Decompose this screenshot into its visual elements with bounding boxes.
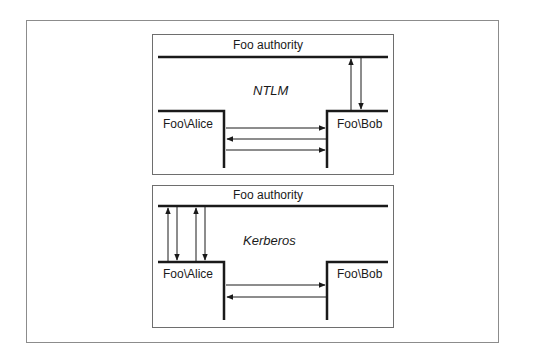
kerberos-diagram <box>158 206 388 320</box>
ntlm-diagram <box>158 57 388 168</box>
kerberos-alice-label: Foo\Alice <box>163 267 213 281</box>
kerberos-bob-label: Foo\Bob <box>337 267 382 281</box>
kerberos-protocol-title: Kerberos <box>243 233 296 248</box>
protocol-diagram <box>0 0 546 358</box>
ntlm-protocol-title: NTLM <box>253 83 288 98</box>
ntlm-bob-label: Foo\Bob <box>337 117 382 131</box>
ntlm-alice-label: Foo\Alice <box>163 117 213 131</box>
kerberos-authority-label: Foo authority <box>233 188 303 202</box>
ntlm-authority-label: Foo authority <box>233 38 303 52</box>
